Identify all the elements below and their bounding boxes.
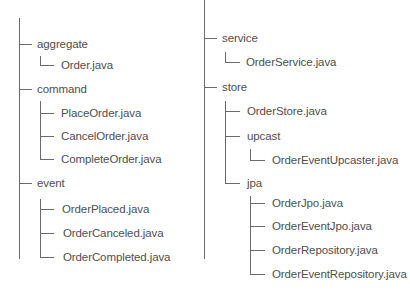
file-order-repository: OrderRepository.java: [272, 243, 378, 257]
folder-service: service: [222, 31, 258, 45]
file-place-order: PlaceOrder.java: [61, 106, 141, 120]
branch-line: [40, 113, 54, 114]
folder-store: store: [222, 80, 247, 94]
branch-line: [40, 257, 54, 258]
upcast-children-line: [250, 149, 251, 160]
branch-line: [250, 203, 265, 204]
file-complete-order: CompleteOrder.java: [61, 152, 161, 166]
jpa-children-line: [250, 196, 251, 274]
branch-line: [40, 65, 54, 66]
branch-line: [250, 274, 265, 275]
folder-command: command: [37, 82, 87, 96]
branch-line: [225, 111, 240, 112]
file-order-event-upcaster: OrderEventUpcaster.java: [272, 153, 398, 167]
branch-line: [40, 159, 54, 160]
folder-upcast: upcast: [247, 129, 280, 143]
branch-line: [40, 233, 54, 234]
file-order-placed: OrderPlaced.java: [62, 202, 149, 216]
branch-line: [40, 209, 54, 210]
left-trunk-line: [19, 18, 20, 259]
file-order-event-repository: OrderEventRepository.java: [272, 267, 407, 281]
file-order-canceled: OrderCanceled.java: [63, 226, 163, 240]
aggregate-children-line: [40, 56, 41, 65]
file-order-store: OrderStore.java: [247, 104, 327, 118]
branch-line: [250, 226, 265, 227]
file-order-java: Order.java: [61, 58, 113, 72]
service-children-line: [225, 52, 226, 62]
command-children-line: [40, 101, 41, 160]
folder-event: event: [37, 176, 65, 190]
branch-line: [225, 136, 240, 137]
event-children-line: [40, 199, 41, 257]
branch-line: [19, 183, 32, 184]
file-cancel-order: CancelOrder.java: [61, 129, 148, 143]
branch-line: [204, 38, 217, 39]
file-order-jpo: OrderJpo.java: [272, 196, 343, 210]
store-children-line: [225, 101, 226, 183]
branch-line: [40, 136, 54, 137]
branch-line: [19, 44, 32, 45]
folder-aggregate: aggregate: [37, 37, 88, 51]
branch-line: [250, 160, 265, 161]
branch-line: [225, 183, 240, 184]
file-order-completed: OrderCompleted.java: [63, 250, 170, 264]
branch-line: [250, 250, 265, 251]
branch-line: [204, 87, 217, 88]
file-order-service: OrderService.java: [246, 55, 336, 69]
branch-line: [225, 62, 240, 63]
folder-jpa: jpa: [247, 176, 262, 190]
branch-line: [19, 89, 32, 90]
file-order-event-jpo: OrderEventJpo.java: [272, 219, 372, 233]
